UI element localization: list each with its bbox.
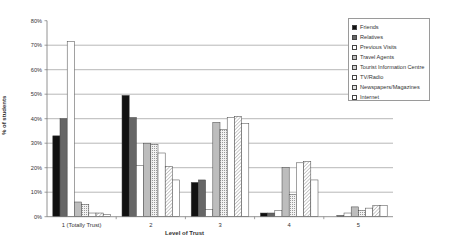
bar	[198, 180, 205, 217]
legend-swatch-icon	[352, 75, 357, 80]
bar	[144, 143, 151, 217]
bar	[191, 182, 198, 216]
bar	[53, 136, 60, 217]
legend-swatch-icon	[352, 45, 357, 50]
y-tick-label: 20%	[31, 165, 42, 171]
legend-item: Tourist Information Centre	[352, 62, 429, 72]
legend-label: Tourist Information Centre	[360, 64, 424, 70]
legend-swatch-icon	[352, 35, 357, 40]
x-axis-label: Level of Trust	[165, 230, 204, 236]
legend-item: Newspapers/Magazines	[352, 82, 429, 92]
y-tick-label: 0%	[34, 214, 42, 220]
legend-item: Previous Visits	[352, 42, 429, 52]
bar	[82, 204, 89, 216]
bar	[220, 130, 227, 217]
bar	[60, 119, 67, 217]
legend-label: Internet	[360, 94, 379, 100]
y-tick-label: 30%	[31, 140, 42, 146]
bar	[227, 117, 234, 216]
bar	[213, 122, 220, 216]
legend-label: Newspapers/Magazines	[360, 84, 420, 90]
legend-label: Friends	[360, 24, 379, 30]
x-tick-label: 3	[218, 222, 221, 228]
legend-swatch-icon	[352, 55, 357, 60]
bar	[289, 195, 296, 217]
bar	[234, 116, 241, 216]
bar	[67, 42, 74, 217]
bar	[172, 180, 179, 217]
legend-item: Relatives	[352, 32, 429, 42]
legend-item: Internet	[352, 92, 429, 102]
x-tick-label: 4	[288, 222, 292, 228]
legend-item: Travel Agents	[352, 52, 429, 62]
bar	[268, 213, 275, 217]
bar	[151, 144, 158, 216]
legend-label: Relatives	[360, 34, 383, 40]
bar	[165, 166, 172, 216]
y-axis-label: % of students	[1, 96, 7, 135]
x-tick-label: 2	[149, 222, 152, 228]
bar	[344, 213, 351, 217]
y-tick-label: 50%	[31, 91, 42, 97]
bar	[206, 209, 213, 216]
bar	[129, 117, 136, 216]
bar	[351, 207, 358, 217]
bar	[89, 213, 96, 217]
bars	[53, 42, 387, 217]
bar	[275, 211, 282, 217]
legend-label: Travel Agents	[360, 54, 394, 60]
bar	[158, 153, 165, 217]
y-tick-label: 70%	[31, 42, 42, 48]
y-tick-label: 10%	[31, 189, 42, 195]
bar	[366, 208, 373, 217]
bar	[136, 165, 143, 216]
bar	[380, 206, 387, 217]
bar	[311, 180, 318, 217]
bar	[74, 202, 81, 217]
legend: FriendsRelativesPrevious VisitsTravel Ag…	[348, 18, 430, 101]
x-tick-label: 5	[357, 222, 360, 228]
legend-item: TV/Radio	[352, 72, 429, 82]
legend-item: Friends	[352, 22, 429, 32]
y-tick-label: 60%	[31, 67, 42, 73]
x-tick-label: 1 (Totally Trust)	[62, 222, 102, 228]
bar	[96, 213, 103, 217]
legend-swatch-icon	[352, 85, 357, 90]
bar	[373, 206, 380, 217]
legend-label: TV/Radio	[360, 74, 383, 80]
legend-label: Previous Visits	[360, 44, 397, 50]
y-tick-label: 80%	[31, 18, 42, 24]
bar	[358, 211, 365, 217]
y-tick-label: 40%	[31, 116, 42, 122]
legend-swatch-icon	[352, 65, 357, 70]
legend-swatch-icon	[352, 25, 357, 30]
bar	[122, 95, 129, 216]
legend-swatch-icon	[352, 95, 357, 100]
bar	[304, 162, 311, 217]
bar	[282, 168, 289, 217]
bar	[260, 213, 267, 217]
bar	[242, 124, 249, 217]
bar	[296, 163, 303, 217]
